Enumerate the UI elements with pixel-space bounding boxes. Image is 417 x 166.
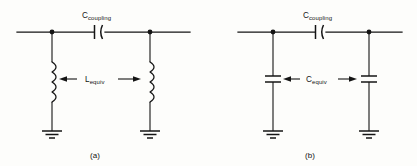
capacitor-label-arrow-right-b [338, 76, 357, 82]
circuit-figure: Ccoupling [0, 0, 417, 166]
capacitor-right-b [361, 76, 377, 82]
equivalent-capacitor-label-b: Cequiv [306, 75, 327, 85]
caption-b: (b) [305, 151, 315, 160]
panel-a: Ccoupling [17, 11, 190, 160]
inductor-right-a [150, 62, 154, 102]
capacitor-label-arrow-left-b [283, 76, 300, 82]
coupling-capacitor-symbol-a [95, 25, 103, 39]
ground-left-b [263, 131, 283, 138]
inductor-left-a [52, 62, 56, 102]
capacitor-left-b [265, 76, 281, 82]
panel-b: Ccoupling [238, 11, 402, 160]
ground-left-a [42, 131, 62, 138]
ground-right-b [359, 131, 379, 138]
coupling-capacitor-symbol-b [316, 25, 324, 39]
inductor-label-arrow-right-a [118, 76, 141, 82]
caption-a: (a) [90, 151, 100, 160]
equivalent-inductor-label-a: Lequiv [85, 75, 105, 85]
inductor-label-arrow-left-a [59, 76, 77, 82]
ground-right-a [140, 131, 160, 138]
coupling-capacitor-label-a: Ccoupling [82, 11, 111, 21]
coupling-capacitor-label-b: Ccoupling [303, 11, 332, 21]
